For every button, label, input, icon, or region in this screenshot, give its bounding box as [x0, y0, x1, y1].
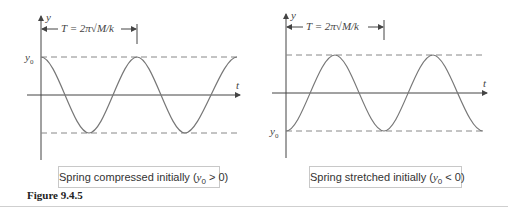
- period-label: T = 2π√M/k: [306, 20, 359, 32]
- y0-label: y0: [270, 125, 278, 140]
- caption-compressed: Spring compressed initially (y0 > 0): [58, 166, 220, 188]
- caption-stretched: Spring stretched initially (y0 < 0): [309, 166, 462, 188]
- right-panel-plot: [272, 14, 487, 158]
- t-axis-label: t: [483, 77, 486, 89]
- left-panel-plot: [27, 16, 240, 160]
- y0-label: y0: [25, 51, 33, 66]
- bottom-rule: [0, 206, 508, 207]
- y-axis-label: y: [46, 11, 51, 23]
- y-axis-label: y: [291, 9, 296, 21]
- t-axis-label: t: [236, 79, 239, 91]
- period-label: T = 2π√M/k: [61, 22, 114, 34]
- figure-label: Figure 9.4.5: [27, 189, 83, 201]
